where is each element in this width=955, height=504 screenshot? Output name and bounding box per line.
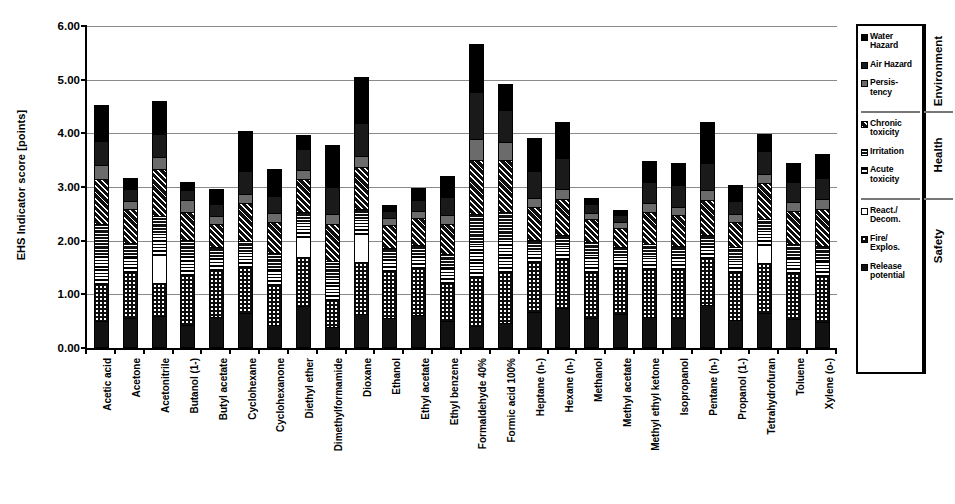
bar-segment-air — [297, 150, 310, 171]
bar-segment-chronic — [758, 184, 771, 220]
bar-segment-water — [441, 177, 454, 198]
x-label-slot: Diethyl ether — [287, 356, 316, 496]
bar-segment-air — [556, 159, 569, 190]
bar-segment-acute — [614, 258, 627, 269]
x-label-slot: Formic acid 100% — [489, 356, 518, 496]
y-tick-label: 1.00 — [58, 288, 80, 300]
stacked-bar[interactable] — [642, 161, 657, 348]
legend-swatch-acute — [861, 167, 868, 174]
bar-segment-acute — [585, 256, 598, 273]
bar-slot — [462, 26, 491, 348]
legend-label: Persis-tency — [870, 78, 898, 97]
bar-segment-air — [210, 205, 223, 217]
bar-segment-react — [297, 238, 310, 258]
stacked-bar[interactable] — [152, 101, 167, 348]
bar-slot — [202, 26, 231, 348]
stacked-bar[interactable] — [671, 163, 686, 348]
stacked-bar[interactable] — [180, 182, 195, 348]
x-label-slot: Ethanol — [373, 356, 402, 496]
bar-segment-water — [326, 146, 339, 188]
x-label-slot: Methanol — [575, 356, 604, 496]
stacked-bar[interactable] — [123, 178, 138, 348]
bar-segment-acute — [355, 221, 368, 235]
bar-segment-fire — [95, 285, 108, 323]
stacked-bar[interactable] — [498, 84, 513, 348]
stacked-bar[interactable] — [238, 131, 253, 348]
x-axis-category-label: Acetonitrile — [161, 358, 171, 413]
legend-swatch-water — [861, 34, 868, 41]
legend-item-persistency[interactable]: Persis-tency — [861, 78, 920, 97]
legend-item-fire[interactable]: Fire/Explos. — [861, 234, 920, 253]
x-tick-mark — [720, 348, 722, 354]
bar-segment-acute — [239, 254, 252, 268]
bar-segment-acute — [297, 224, 310, 238]
stacked-bar[interactable] — [354, 77, 369, 348]
stacked-bar[interactable] — [728, 185, 743, 348]
stacked-bar[interactable] — [700, 122, 715, 348]
stacked-bar[interactable] — [440, 176, 455, 348]
stacked-bar[interactable] — [469, 44, 484, 348]
bar-segment-acute — [441, 268, 454, 284]
stacked-bar[interactable] — [325, 145, 340, 348]
bar-segment-air — [672, 186, 685, 207]
bar-segment-acute — [124, 257, 137, 273]
stacked-bar[interactable] — [757, 134, 772, 348]
legend-item-irritation[interactable]: Irritation — [861, 147, 920, 156]
legend-item-react[interactable]: React./Decom. — [861, 206, 920, 225]
bar-segment-persistency — [412, 212, 425, 220]
stacked-bar[interactable] — [94, 105, 109, 348]
stacked-bar[interactable] — [527, 138, 542, 348]
bar-segment-air — [499, 111, 512, 143]
bar-segment-irritation — [412, 246, 425, 257]
stacked-bar[interactable] — [786, 163, 801, 348]
legend-item-chronic[interactable]: Chronictoxicity — [861, 119, 920, 138]
x-tick-mark — [460, 348, 462, 354]
x-axis-category-label: Cyclohexanone — [276, 358, 286, 432]
bar-segment-acute — [268, 270, 281, 286]
bar-segment-fire — [614, 269, 627, 315]
stacked-bar[interactable] — [296, 135, 311, 348]
legend-item-acute[interactable]: Acutetoxicity — [861, 165, 920, 184]
x-tick-mark — [691, 348, 693, 354]
x-tick-mark — [835, 348, 837, 354]
bar-segment-irritation — [816, 247, 829, 261]
x-axis-category-label: Methyl acetate — [623, 358, 633, 427]
stacked-bar[interactable] — [613, 210, 628, 348]
bar-segment-chronic — [355, 168, 368, 210]
bar-segment-fire — [412, 269, 425, 316]
bar-segment-water — [643, 162, 656, 182]
stacked-bar[interactable] — [382, 205, 397, 348]
x-axis-category-label: Acetone — [132, 358, 142, 397]
bar-slot — [347, 26, 376, 348]
bar-segment-chronic — [326, 225, 339, 263]
legend-rail-divider — [924, 111, 953, 113]
bar-slot — [722, 26, 751, 348]
legend-item-air[interactable]: Air Hazard — [861, 60, 920, 69]
stacked-bar[interactable] — [555, 122, 570, 348]
stacked-bar[interactable] — [411, 188, 426, 348]
stacked-bar[interactable] — [815, 154, 830, 348]
stacked-bar[interactable] — [267, 169, 282, 348]
bar-segment-water — [124, 179, 137, 190]
stacked-bar[interactable] — [584, 198, 599, 348]
legend-label: Chronictoxicity — [870, 119, 902, 138]
legend-label: Acutetoxicity — [870, 165, 899, 184]
bar-segment-acute — [153, 235, 166, 256]
bar-segment-fire — [268, 286, 281, 326]
stacked-bar[interactable] — [209, 189, 224, 348]
bar-segment-acute — [816, 261, 829, 277]
bar-segment-water — [729, 186, 742, 202]
bar-segment-acute — [729, 260, 742, 273]
bar-segment-chronic — [729, 223, 742, 249]
bar-segment-water — [412, 189, 425, 201]
x-label-slot: Butanol (1-) — [172, 356, 201, 496]
bar-segment-air — [153, 135, 166, 158]
bar-segment-chronic — [614, 229, 627, 248]
legend-item-release[interactable]: Releasepotential — [861, 262, 920, 281]
bar-slot — [808, 26, 837, 348]
legend-item-water[interactable]: Water Hazard — [861, 32, 920, 51]
bar-segment-chronic — [816, 210, 829, 248]
bar-slot — [404, 26, 433, 348]
bar-segment-chronic — [556, 200, 569, 236]
x-label-slot: Pentane (n-) — [691, 356, 720, 496]
